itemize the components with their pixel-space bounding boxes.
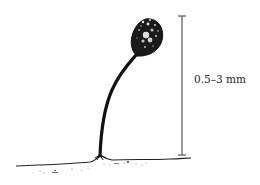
scale-bar [178,16,186,155]
specimen-illustration: 0.5–3 mm [0,0,260,185]
scale-bar-label: 0.5–3 mm [194,73,246,85]
sporangium-head [131,19,162,56]
stalk [95,54,137,160]
substrate-ground [16,155,191,174]
